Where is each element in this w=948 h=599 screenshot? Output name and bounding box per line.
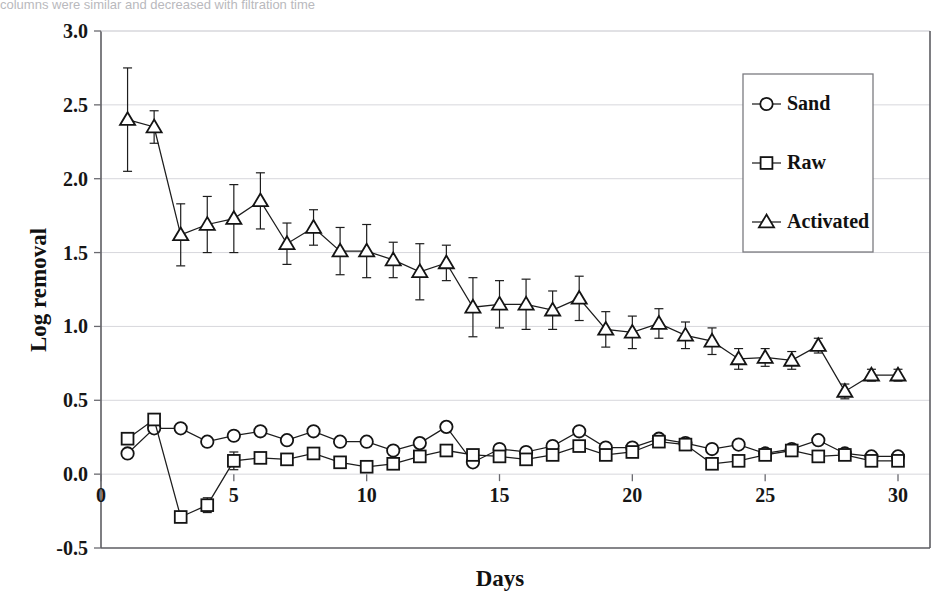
data-point [519,297,534,310]
y-tick-label: 0.5 [63,389,88,411]
data-point [812,451,824,463]
data-point [439,256,454,269]
data-point [786,445,798,457]
data-point [412,264,427,277]
data-point [839,449,851,461]
x-tick-label: 10 [357,484,377,506]
data-point [175,422,187,434]
series-line [128,427,898,462]
chart-figure: -0.50.00.51.01.52.02.53.0051015202530 Lo… [0,0,948,599]
data-point [148,414,160,426]
data-point [812,434,824,446]
data-point [308,448,320,460]
data-point [360,435,372,447]
data-point [520,453,532,465]
data-point [440,421,452,433]
data-point [361,461,373,473]
data-point [281,453,293,465]
legend-marker-square [761,157,773,169]
data-point [201,435,213,447]
y-tick-label: 3.0 [63,20,88,42]
data-point [121,447,133,459]
data-point [547,449,559,461]
data-point [334,456,346,468]
data-point [228,455,240,467]
y-tick-label: 1.5 [63,242,88,264]
data-point [626,446,638,458]
data-point [201,499,213,511]
data-point [279,236,294,249]
data-point [573,425,585,437]
data-point [653,436,665,448]
y-axis-title: Log removal [26,228,51,352]
y-tick-label: -0.5 [56,537,88,559]
data-point [759,449,771,461]
x-tick-label: 30 [888,484,908,506]
data-point [706,458,718,470]
data-point [253,193,268,206]
data-point [228,430,240,442]
x-tick-label: 20 [622,484,642,506]
x-axis-title: Days [476,566,525,591]
y-tick-label: 1.0 [63,315,88,337]
data-point [573,440,585,452]
y-tick-label: 0.0 [63,463,88,485]
data-point [890,368,905,381]
data-point [175,511,187,523]
data-point [254,425,266,437]
data-point [706,443,718,455]
series-raw [122,414,904,523]
data-point [120,112,135,125]
data-point [492,297,507,310]
x-tick-label: 5 [229,484,239,506]
data-point [837,384,852,397]
data-point [758,350,773,363]
data-point [226,211,241,224]
data-point [173,227,188,240]
x-tick-label: 0 [96,484,106,506]
data-point [572,291,587,304]
data-point [494,451,506,463]
data-point [440,445,452,457]
data-point [307,425,319,437]
legend-marker-circle [760,98,772,110]
data-point [731,352,746,365]
x-tick-label: 25 [755,484,775,506]
data-point [387,444,399,456]
chart-legend: SandRawActivated [743,74,873,252]
data-point [732,438,744,450]
data-point [281,434,293,446]
chart-svg: -0.50.00.51.01.52.02.53.0051015202530 Lo… [0,0,948,599]
legend-label: Activated [787,210,869,232]
legend-label: Sand [787,92,830,114]
data-point [733,455,745,467]
data-point [414,451,426,463]
data-point [892,455,904,467]
data-point [414,437,426,449]
data-point [334,435,346,447]
data-point [122,433,134,445]
data-point [811,338,826,351]
data-point [467,449,479,461]
legend-label: Raw [787,151,826,173]
x-tick-label: 15 [490,484,510,506]
data-point [255,452,267,464]
data-point [864,368,879,381]
data-point [866,455,878,467]
y-tick-label: 2.5 [63,94,88,116]
data-point [651,316,666,329]
data-point [678,328,693,341]
y-tick-label: 2.0 [63,168,88,190]
data-point [306,220,321,233]
data-point [680,439,692,451]
data-point [386,253,401,266]
data-point [359,244,374,257]
data-point [600,449,612,461]
data-point [387,458,399,470]
